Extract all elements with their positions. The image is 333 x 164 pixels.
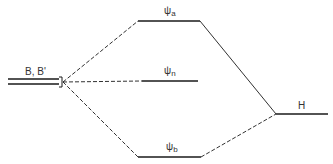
connector-b-to-psi-a (63, 21, 138, 82)
connector-psi-a-to-h (200, 21, 276, 114)
connector-b-to-psi-n (63, 81, 142, 82)
label-psi-b: ψb (166, 142, 178, 154)
bracket (59, 77, 62, 87)
diagram-lines (0, 0, 333, 164)
label-psi-n: ψn (164, 66, 176, 78)
connector-b-to-psi-b (63, 82, 138, 157)
connector-psi-b-to-h (201, 114, 276, 157)
label-psi-a: ψa (164, 6, 176, 18)
mo-diagram: B, B' ψa ψn ψb H (0, 0, 333, 164)
label-h: H (298, 101, 305, 111)
label-b-b-prime: B, B' (25, 67, 46, 77)
